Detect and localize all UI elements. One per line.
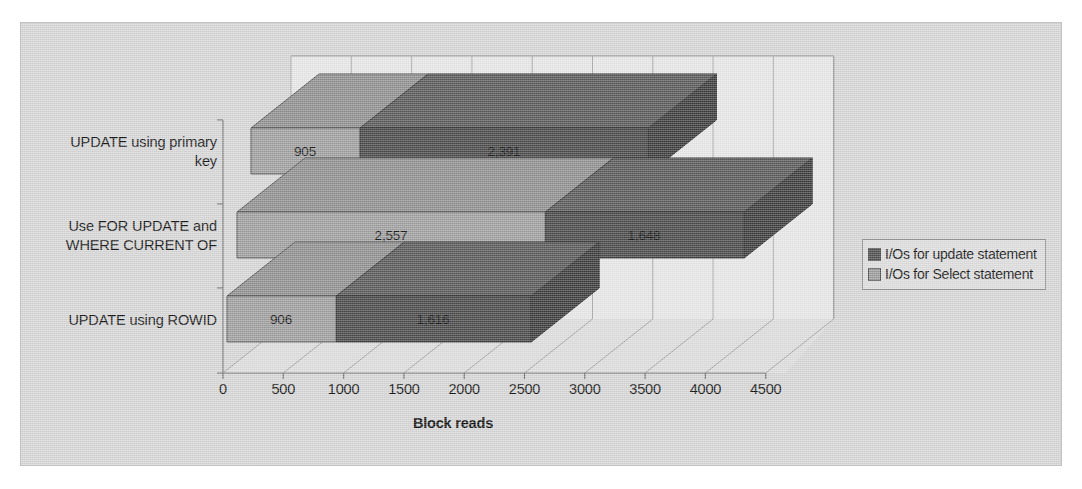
xtick-label-1: 500	[272, 381, 296, 397]
chart-panel: UPDATE using primary key Use FOR UPDATE …	[20, 22, 1062, 466]
xtick-label-6: 3000	[569, 381, 600, 397]
legend-swatch-select-icon	[868, 268, 881, 281]
xtick-label-7: 3500	[629, 381, 660, 397]
xtick-label-3: 1500	[388, 381, 419, 397]
category-label-1: UPDATE using primary key	[29, 133, 217, 170]
legend-label-select: I/Os for Select statement	[885, 266, 1033, 282]
xtick-label-2: 1000	[328, 381, 359, 397]
xtick-label-9: 4500	[750, 381, 781, 397]
legend-swatch-update-icon	[868, 248, 881, 261]
category-axis	[217, 120, 223, 373]
xtick-label-0: 0	[219, 381, 227, 397]
xtick-label-4: 2000	[448, 381, 479, 397]
bar-group-row-3	[227, 242, 599, 342]
category-label-3: UPDATE using ROWID	[29, 311, 217, 330]
data-label-select-1: 905	[294, 144, 316, 159]
xtick-label-5: 2500	[509, 381, 540, 397]
xtick-label-8: 4000	[690, 381, 721, 397]
legend-label-update: I/Os for update statement	[885, 246, 1037, 262]
data-label-select-2: 2,557	[375, 228, 408, 243]
legend: I/Os for update statement I/Os for Selec…	[862, 239, 1046, 290]
data-label-select-3: 906	[270, 312, 292, 327]
value-axis	[223, 373, 766, 379]
x-axis-title: Block reads	[413, 415, 493, 431]
data-label-update-1: 2,391	[488, 144, 521, 159]
legend-item-select[interactable]: I/Os for Select statement	[868, 264, 1037, 284]
category-label-2: Use FOR UPDATE and WHERE CURRENT OF	[29, 217, 217, 254]
legend-item-update[interactable]: I/Os for update statement	[868, 244, 1037, 264]
data-label-update-2: 1,648	[628, 228, 661, 243]
data-label-update-3: 1,616	[417, 312, 450, 327]
chart-screenshot: UPDATE using primary key Use FOR UPDATE …	[0, 0, 1082, 489]
